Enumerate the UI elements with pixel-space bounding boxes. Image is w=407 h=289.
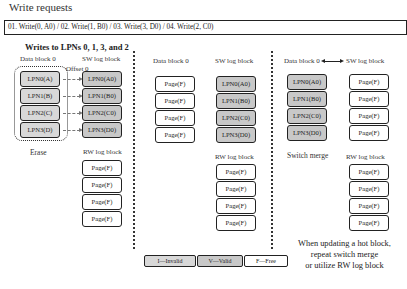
page-invalid: LPN1(B) [20,88,60,104]
arrow-icon [63,130,80,131]
arrow-icon [63,113,80,114]
page-free: Page(F) [82,160,122,176]
page-free: Page(F) [349,181,389,197]
page-valid: LPN3(D0) [216,127,256,143]
page-valid: LPN3(D0) [82,122,122,138]
panel2-data-block-label: Data block 0 [153,57,189,65]
page-free: Page(F) [155,127,195,143]
panel3-rw-log-block: Page(F) Page(F) Page(F) Page(F) [349,164,389,232]
page-invalid: LPN2(C) [20,105,60,121]
page-valid: LPN1(B0) [82,88,122,104]
panel2-rw-log-label: RW log block [215,153,254,161]
page-invalid: LPN3(D) [20,122,60,138]
page-free: Page(F) [349,164,389,180]
panel3-rw-log-label: RW log block [346,153,385,161]
panel1-rw-log-block: Page(F) Page(F) Page(F) Page(F) [82,160,122,228]
caption-line-1: When updating a hot block, [282,238,407,249]
panel3-data-block-label: Data block 0 [284,57,320,65]
page-free: Page(F) [349,108,389,124]
panel2-data-block: Page(F) Page(F) Page(F) Page(F) [155,76,195,144]
page-free: Page(F) [216,164,256,180]
arrow-icon [63,79,80,80]
panel3-sw-log-block: Page(F) Page(F) Page(F) Page(F) [349,74,389,142]
page-valid: LPN2(C0) [287,108,327,124]
write-requests-title: Write requests [9,1,72,13]
page-valid: LPN0(A0) [216,76,256,92]
panel1-sw-log-block: LPN0(A0) LPN1(B0) LPN2(C0) LPN3(D0) [82,71,122,139]
panel1-sw-log-label: SW log block [82,55,120,63]
page-valid: LPN2(C0) [82,105,122,121]
page-free: Page(F) [349,215,389,231]
panel2-sw-log-label: SW log block [215,57,253,65]
panel1-rw-log-label: RW log block [83,148,122,156]
page-free: Page(F) [216,215,256,231]
page-valid: LPN1(B0) [287,91,327,107]
page-valid: LPN1(B0) [216,93,256,109]
page-valid: LPN0(A0) [82,71,122,87]
panel3-sw-log-label: SW log block [346,57,384,65]
page-free: Page(F) [349,74,389,90]
page-free: Page(F) [216,198,256,214]
legend-valid: V—Valid [197,255,243,267]
page-free: Page(F) [349,198,389,214]
page-valid: LPN2(C0) [216,110,256,126]
caption-line-3: or utilize RW log block [282,260,407,271]
caption-line-2: repeat switch merge [282,249,407,260]
panel1-data-block: LPN0(A) LPN1(B) LPN2(C) LPN3(D) [20,71,60,139]
caption: When updating a hot block, repeat switch… [282,238,407,271]
writes-subtitle: Writes to LPNs 0, 1, 3, and 2 [25,42,129,52]
page-free: Page(F) [349,125,389,141]
write-requests-box: 01. Write(0, A0) / 02. Write(1, B0) / 03… [4,20,407,35]
page-invalid: LPN0(A) [20,71,60,87]
panel2-sw-log-block: LPN0(A0) LPN1(B0) LPN2(C0) LPN3(D0) [216,76,256,144]
switch-merge-label: Switch merge [287,151,328,160]
panel-divider-2 [271,51,273,249]
legend: I—Invalid V—Valid F—Free [144,255,289,267]
page-free: Page(F) [155,110,195,126]
double-arrow-icon [323,61,342,62]
page-free: Page(F) [82,194,122,210]
erase-label: Erase [30,148,47,157]
page-free: Page(F) [155,93,195,109]
panel2-rw-log-block: Page(F) Page(F) Page(F) Page(F) [216,164,256,232]
page-free: Page(F) [216,181,256,197]
page-valid: LPN0(A0) [287,74,327,90]
page-free: Page(F) [82,211,122,227]
page-free: Page(F) [82,177,122,193]
page-free: Page(F) [155,76,195,92]
panel-divider-1 [133,51,135,249]
page-valid: LPN3(D0) [287,125,327,141]
arrow-icon [63,96,80,97]
panel1-data-block-label: Data block 0 [20,55,56,63]
panel3-data-block: LPN0(A0) LPN1(B0) LPN2(C0) LPN3(D0) [287,74,327,142]
page-free: Page(F) [349,91,389,107]
legend-invalid: I—Invalid [144,255,196,267]
